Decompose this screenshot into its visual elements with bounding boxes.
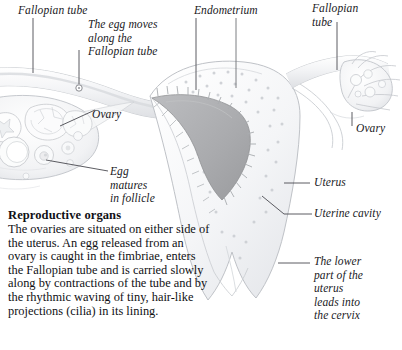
label-ovary-left: Ovary <box>92 108 121 122</box>
caption-body: The ovaries are situated on either side … <box>8 223 213 318</box>
anatomy-figure: Fallopian tube The egg moves along the F… <box>0 0 402 350</box>
label-egg-matures: Egg matures in follicle <box>110 165 155 206</box>
label-fallopian-tube-right: Fallopian tube <box>312 2 358 29</box>
label-fallopian-tube-left: Fallopian tube <box>18 4 87 18</box>
label-egg-moves: The egg moves along the Fallopian tube <box>88 18 158 59</box>
label-uterus: Uterus <box>314 176 346 190</box>
label-endometrium: Endometrium <box>194 4 258 18</box>
caption-heading: Reproductive organs <box>8 208 213 222</box>
caption-block: Reproductive organs The ovaries are situ… <box>8 208 213 318</box>
label-uterine-cavity: Uterine cavity <box>314 207 381 221</box>
label-ovary-right: Ovary <box>356 122 385 136</box>
label-lower-uterus: The lower part of the uterus leads into … <box>314 255 363 323</box>
